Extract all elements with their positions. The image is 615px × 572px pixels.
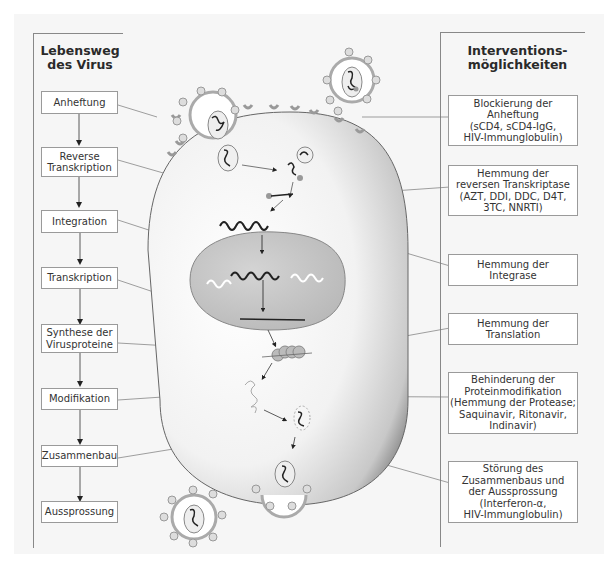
step-transkription: Transkription [41, 267, 118, 289]
intervention-stoerung-zusammenbau: Störung des Zusammenbaus und der Ausspro… [448, 461, 578, 523]
intervention-hemmung-reverse-transkriptase: Hemmung der reversen Transkriptase (AZT,… [448, 165, 578, 216]
step-reverse-transkription: Reverse Transkription [41, 147, 118, 177]
free-virus-top [323, 48, 380, 115]
step-anheftung: Anheftung [41, 91, 118, 114]
intervention-blockierung-anheftung: Blockierung der Anheftung (sCD4, sCD4-Ig… [448, 95, 578, 146]
intervention-behinderung-proteinmodifikation: Behinderung der Proteinmodifikation (Hem… [448, 372, 578, 434]
step-zusammenbau: Zusammenbau [41, 445, 118, 467]
intervention-hemmung-integrase: Hemmung der Integrase [448, 254, 578, 286]
step-modifikation: Modifikation [41, 388, 118, 410]
free-virus-bottom [160, 486, 226, 547]
step-aussprossung: Aussprossung [41, 501, 118, 523]
step-integration: Integration [41, 210, 118, 233]
intervention-hemmung-translation: Hemmung der Translation [448, 313, 578, 345]
step-synthese-virusproteine: Synthese der Virusproteine [41, 324, 118, 353]
